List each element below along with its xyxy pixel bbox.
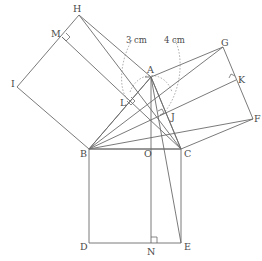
label-k: K [238, 74, 246, 85]
label-j: J [170, 111, 175, 122]
label-h: H [73, 3, 81, 14]
label-g: G [221, 37, 229, 48]
arc-4cm [163, 40, 180, 114]
label-4cm: 4 cm [164, 35, 185, 45]
line-bg [89, 47, 223, 149]
right-angle-n [151, 237, 157, 243]
square-acfg [151, 47, 253, 149]
line-ae [151, 77, 181, 243]
label-o: O [144, 148, 152, 159]
right-angle-m [62, 33, 70, 41]
square-bced [89, 149, 181, 243]
label-i: I [11, 78, 15, 89]
label-n: N [147, 246, 155, 257]
label-3cm: 3 cm [126, 35, 147, 45]
label-f: F [254, 113, 261, 124]
label-b: B [80, 148, 87, 159]
label-d: D [80, 241, 88, 252]
label-l: L [120, 97, 127, 108]
label-m: M [51, 28, 61, 39]
line-bf [89, 119, 253, 149]
pythagorean-diagram: H M I L A G K F J B O C D N E 3 cm 4 cm [0, 0, 262, 261]
label-c: C [184, 148, 191, 159]
label-a: A [146, 64, 154, 75]
label-e: E [184, 241, 191, 252]
